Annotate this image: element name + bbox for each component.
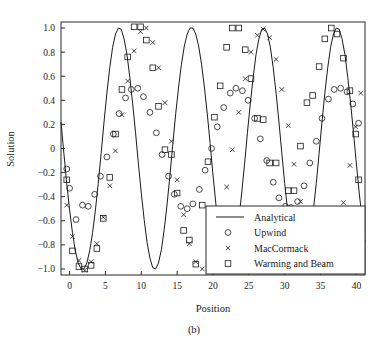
- data-point: [178, 203, 184, 209]
- data-point: [304, 100, 310, 106]
- x-tick-label: 10: [137, 281, 147, 291]
- data-point: [338, 85, 344, 91]
- y-tick-label: 1.0: [43, 23, 55, 33]
- data-point: [242, 47, 248, 53]
- data-point: [144, 26, 149, 31]
- data-point: [243, 76, 248, 81]
- data-point: [199, 202, 205, 208]
- x-tick-label: 40: [352, 281, 362, 291]
- x-tick-label: 25: [244, 281, 254, 291]
- data-point: [214, 124, 220, 130]
- data-point: [113, 149, 118, 154]
- data-point: [98, 173, 104, 179]
- data-point: [107, 175, 113, 181]
- data-point: [356, 120, 362, 126]
- data-point: [341, 200, 346, 205]
- y-tick-label: 0.8: [43, 48, 55, 58]
- y-tick-label: −1.0: [38, 264, 55, 274]
- data-point: [358, 91, 363, 96]
- data-point: [239, 88, 245, 94]
- data-point: [101, 216, 107, 222]
- data-point: [190, 201, 196, 207]
- y-tick-label: −0.8: [38, 240, 55, 250]
- y-tick-label: 0.6: [43, 72, 55, 82]
- data-point: [245, 97, 251, 103]
- data-point: [107, 184, 112, 189]
- x-tick-label: 30: [280, 281, 290, 291]
- y-axis-title: Solution: [5, 130, 16, 166]
- x-tick-label: 35: [316, 281, 326, 291]
- data-point: [348, 163, 353, 168]
- x-tick-label: 20: [208, 281, 218, 291]
- data-point: [224, 185, 229, 190]
- x-tick-label: 15: [172, 281, 182, 291]
- data-point: [70, 248, 76, 254]
- data-point: [85, 203, 91, 209]
- data-point: [316, 64, 322, 70]
- data-point: [166, 173, 172, 179]
- data-point: [184, 206, 190, 212]
- data-point: [125, 79, 130, 84]
- data-point: [147, 109, 153, 115]
- data-point: [94, 246, 100, 252]
- data-point: [230, 147, 235, 152]
- x-axis-title: Position: [196, 303, 231, 314]
- data-point: [150, 40, 155, 45]
- data-point: [156, 65, 161, 70]
- data-point: [119, 87, 125, 93]
- legend-label: MacCormack: [254, 243, 308, 254]
- data-point: [138, 24, 144, 30]
- data-point: [175, 178, 180, 183]
- data-point: [144, 37, 150, 43]
- data-point: [150, 65, 156, 71]
- figure-container: −1.0−0.8−0.6−0.4−0.200.20.40.60.81.0 051…: [0, 0, 388, 340]
- data-point: [156, 104, 162, 110]
- data-point: [227, 90, 233, 96]
- legend-label: Warming and Beam: [254, 258, 334, 269]
- data-point: [236, 25, 242, 31]
- data-point: [322, 36, 328, 42]
- data-point: [131, 24, 137, 30]
- data-point: [64, 166, 70, 172]
- data-point: [104, 154, 110, 160]
- data-point: [141, 94, 147, 100]
- data-point: [249, 50, 254, 55]
- data-point: [89, 259, 94, 264]
- x-tick-label: 5: [103, 281, 108, 291]
- data-point: [255, 33, 260, 38]
- data-point: [301, 183, 307, 189]
- data-point: [80, 202, 86, 208]
- chart-legend: AnalyticalUpwindMacCormackWarming and Be…: [206, 206, 365, 274]
- data-point: [230, 25, 236, 31]
- data-point: [138, 29, 143, 34]
- data-point: [276, 195, 282, 201]
- data-point: [110, 131, 116, 137]
- data-point: [273, 160, 279, 166]
- data-point: [298, 143, 304, 149]
- solution-vs-position-chart: −1.0−0.8−0.6−0.4−0.200.20.40.60.81.0 051…: [0, 0, 388, 340]
- y-tick-label: 0: [50, 144, 55, 154]
- data-point: [257, 136, 263, 142]
- data-point: [64, 203, 69, 208]
- data-point: [260, 117, 266, 123]
- data-point: [221, 105, 227, 111]
- data-point: [334, 31, 340, 37]
- data-point: [353, 125, 358, 130]
- data-point: [285, 188, 291, 194]
- legend-label: Analytical: [254, 212, 296, 223]
- figure-caption: (b): [188, 324, 201, 336]
- data-point: [286, 123, 291, 128]
- data-point: [291, 188, 297, 194]
- data-point: [274, 57, 279, 62]
- data-point: [270, 179, 276, 185]
- data-point: [200, 267, 205, 272]
- data-point: [237, 110, 242, 115]
- x-tick-label: 0: [67, 281, 72, 291]
- data-point: [95, 241, 100, 246]
- data-point: [135, 85, 141, 91]
- data-point: [292, 162, 297, 167]
- data-point: [212, 114, 218, 120]
- data-point: [202, 167, 208, 173]
- data-point: [73, 217, 79, 223]
- data-point: [280, 87, 285, 92]
